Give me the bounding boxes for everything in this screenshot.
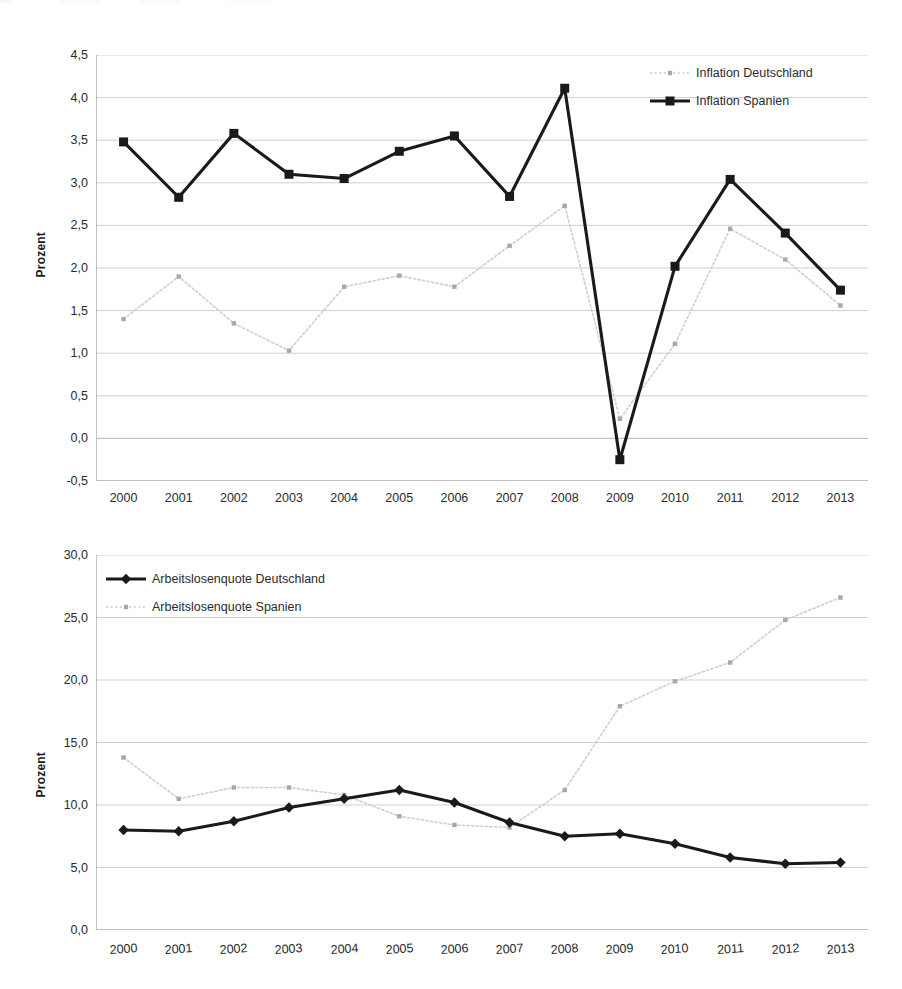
x-tick-label: 2003 [261,940,317,958]
data-point-square [560,84,569,93]
data-point-square [726,175,735,184]
data-point-dot [232,785,236,789]
data-point-square [666,97,675,106]
data-point-square [174,193,183,202]
x-tick-label: 2008 [537,491,592,505]
data-point-diamond [394,785,404,795]
x-tick-label: 2005 [372,491,427,505]
data-point-dot [618,417,622,421]
x-tick-label: 2007 [482,940,538,958]
legend-item[interactable]: Inflation Deutschland [648,62,813,84]
y-tick-label: 4,5 [42,48,88,62]
x-tick-label: 2006 [427,491,482,505]
legend-item[interactable]: Arbeitslosenquote Spanien [104,596,325,618]
x-tick-label: 2013 [813,491,868,505]
data-point-diamond [449,797,459,807]
legend-label: Arbeitslosenquote Deutschland [152,572,325,586]
x-tick-label: 2009 [592,940,648,958]
data-point-diamond [229,816,239,826]
legend-item[interactable]: Arbeitslosenquote Deutschland [104,568,325,590]
legend-swatch-small-dot-icon [104,600,148,614]
x-tick-label: 2010 [647,491,702,505]
data-point-dot [342,285,346,289]
data-point-diamond [504,817,514,827]
data-point-dot [177,274,181,278]
arbeitslosenquote-chart: Prozent 30,025,020,015,010,05,00,0 20002… [0,520,902,989]
data-point-dot [177,797,181,801]
x-tick-label: 2002 [206,491,261,505]
x-tick-label: 2013 [812,940,868,958]
y-tick-label: -0,5 [42,474,88,488]
inflation-plot-svg [96,55,868,481]
legend-label: Inflation Spanien [696,94,789,108]
legend-label: Inflation Deutschland [696,66,813,80]
data-point-dot [287,785,291,789]
y-tick-label: 25,0 [42,611,88,625]
data-point-dot [287,348,291,352]
data-point-square [395,147,404,156]
data-point-dot [507,244,511,248]
data-point-diamond [118,825,128,835]
data-point-diamond [174,826,184,836]
x-tick-label: 2005 [371,940,427,958]
data-point-square [229,129,238,138]
series-line-1 [124,206,841,419]
y-tick-label: 0,5 [42,389,88,403]
inflation-chart: Prozent 4,54,03,53,02,52,01,51,00,50,0-0… [0,0,902,520]
y-tick-label: 20,0 [42,673,88,687]
x-tick-label: 2000 [96,940,152,958]
inflation-legend: Inflation DeutschlandInflation Spanien [648,62,813,118]
data-point-square [615,455,624,464]
x-tick-label: 2011 [703,491,758,505]
x-tick-label: 2008 [537,940,593,958]
arbeitslosenquote-legend: Arbeitslosenquote DeutschlandArbeitslose… [104,568,325,624]
data-point-dot [673,342,677,346]
y-tick-label: 3,5 [42,133,88,147]
data-point-square [119,137,128,146]
y-tick-label: 5,0 [42,861,88,875]
y-tick-label: 0,0 [42,923,88,937]
data-point-dot [673,679,677,683]
y-tick-label: 3,0 [42,176,88,190]
data-point-dot [563,204,567,208]
x-tick-label: 2007 [482,491,537,505]
legend-item[interactable]: Inflation Spanien [648,90,813,112]
x-tick-label: 2010 [647,940,703,958]
data-point-dot [728,660,732,664]
x-tick-label: 2012 [757,940,813,958]
data-point-diamond [121,574,131,584]
data-point-diamond [560,831,570,841]
data-point-dot [452,285,456,289]
x-tick-label: 2012 [758,491,813,505]
y-tick-label: 15,0 [42,736,88,750]
data-point-dot [783,257,787,261]
x-tick-label: 2001 [151,940,207,958]
y-tick-label: 0,0 [42,431,88,445]
data-point-diamond [670,839,680,849]
series-line-2 [124,88,841,459]
y-tick-label: 1,0 [42,346,88,360]
data-point-square [285,170,294,179]
y-tick-label: 2,0 [42,261,88,275]
data-point-diamond [615,829,625,839]
data-point-dot [121,317,125,321]
legend-swatch-diamond-icon [104,572,148,586]
y-tick-label: 1,5 [42,304,88,318]
x-tick-label: 2004 [317,491,372,505]
y-tick-label: 30,0 [42,548,88,562]
data-point-square [671,262,680,271]
x-tick-label: 2009 [592,491,647,505]
data-point-diamond [725,852,735,862]
data-point-dot [452,823,456,827]
data-point-dot [728,227,732,231]
x-tick-label: 2003 [261,491,316,505]
data-point-dot [124,605,128,609]
legend-swatch-small-dot-icon [648,66,692,80]
x-tick-label: 2002 [206,940,262,958]
data-point-dot [618,704,622,708]
inflation-plot-area [96,55,868,481]
data-point-dot [397,273,401,277]
x-tick-label: 2000 [96,491,151,505]
legend-label: Arbeitslosenquote Spanien [152,600,301,614]
data-point-square [505,192,514,201]
